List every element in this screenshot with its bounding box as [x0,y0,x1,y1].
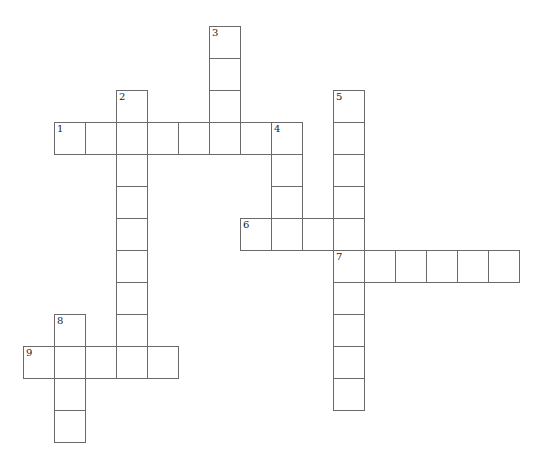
crossword-cell[interactable] [209,122,241,155]
crossword-cell[interactable] [333,282,365,315]
crossword-cell[interactable] [333,346,365,379]
crossword-cell[interactable] [116,314,148,347]
crossword-cell[interactable] [116,154,148,187]
crossword-cell[interactable] [364,250,396,283]
crossword-cell[interactable] [333,378,365,411]
crossword-cell[interactable] [116,122,148,155]
crossword-cell[interactable] [85,346,117,379]
clue-number: 7 [336,252,342,262]
crossword-cell[interactable] [271,218,303,251]
crossword-grid: 142357689 [0,0,543,469]
crossword-cell[interactable]: 4 [271,122,303,155]
crossword-cell[interactable] [457,250,489,283]
crossword-cell[interactable] [240,122,272,155]
crossword-cell[interactable] [147,122,179,155]
crossword-cell[interactable]: 2 [116,90,148,123]
crossword-cell[interactable]: 8 [54,314,86,347]
crossword-cell[interactable] [209,90,241,123]
crossword-cell[interactable] [116,250,148,283]
clue-number: 5 [336,92,342,102]
crossword-cell[interactable] [333,218,365,251]
crossword-cell[interactable]: 6 [240,218,272,251]
crossword-cell[interactable] [178,122,210,155]
crossword-cell[interactable]: 1 [54,122,86,155]
crossword-cell[interactable] [209,58,241,91]
crossword-cell[interactable] [116,346,148,379]
clue-number: 2 [119,92,125,102]
clue-number: 9 [26,348,32,358]
crossword-cell[interactable] [54,346,86,379]
crossword-cell[interactable] [271,154,303,187]
crossword-cell[interactable] [333,122,365,155]
crossword-cell[interactable]: 3 [209,26,241,59]
clue-number: 8 [57,316,63,326]
crossword-cell[interactable] [116,186,148,219]
crossword-cell[interactable] [395,250,427,283]
crossword-cell[interactable] [147,346,179,379]
crossword-cell[interactable] [116,218,148,251]
clue-number: 6 [243,220,249,230]
crossword-cell[interactable] [333,314,365,347]
crossword-cell[interactable]: 7 [333,250,365,283]
crossword-cell[interactable] [54,378,86,411]
crossword-cell[interactable] [54,410,86,443]
clue-number: 4 [274,124,280,134]
clue-number: 1 [57,124,63,134]
crossword-cell[interactable] [426,250,458,283]
crossword-cell[interactable] [116,282,148,315]
crossword-cell[interactable]: 9 [23,346,55,379]
crossword-cell[interactable] [302,218,334,251]
crossword-cell[interactable] [271,186,303,219]
crossword-cell[interactable] [85,122,117,155]
clue-number: 3 [212,28,218,38]
crossword-cell[interactable]: 5 [333,90,365,123]
crossword-cell[interactable] [333,186,365,219]
crossword-cell[interactable] [333,154,365,187]
crossword-cell[interactable] [488,250,520,283]
